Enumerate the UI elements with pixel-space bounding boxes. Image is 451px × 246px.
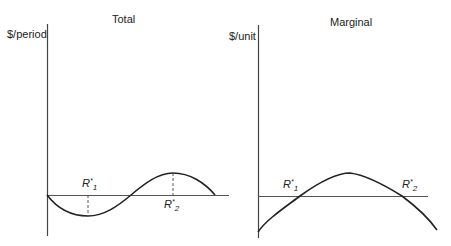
- total-y-label: $/period: [7, 28, 47, 40]
- r2-base: R: [402, 178, 410, 190]
- charts-canvas: [0, 0, 451, 246]
- marginal-r2-label: R*2: [402, 178, 417, 193]
- r1-base: R: [82, 177, 90, 189]
- total-title: Total: [112, 13, 135, 25]
- r1-sub: 1: [93, 183, 97, 192]
- r2-sub: 2: [413, 184, 417, 193]
- marginal-r1-label: R*1: [283, 178, 298, 193]
- total-r1-label: R*1: [82, 177, 97, 192]
- r1-base: R: [283, 178, 291, 190]
- marginal-title: Marginal: [330, 16, 372, 28]
- r2-sub: 2: [175, 204, 179, 213]
- r2-base: R: [164, 198, 172, 210]
- r1-sub: 1: [294, 184, 298, 193]
- total-curve: [47, 173, 215, 216]
- marginal-y-label: $/unit: [229, 30, 256, 42]
- total-r2-label: R*2: [164, 198, 179, 213]
